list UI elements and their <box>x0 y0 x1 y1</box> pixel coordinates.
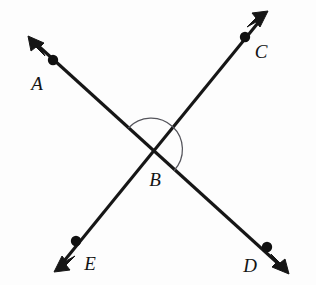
arrowhead-e <box>54 256 75 272</box>
geometry-figure: A B C D E <box>0 0 316 285</box>
label-c: C <box>255 41 268 62</box>
point-dot-c <box>240 32 250 42</box>
point-dot-a <box>48 55 58 65</box>
label-b: B <box>149 169 161 190</box>
label-d: D <box>242 255 257 276</box>
line-ad <box>33 41 283 268</box>
arrowhead-a <box>28 36 45 56</box>
line-ec <box>60 18 262 266</box>
label-e: E <box>83 253 96 274</box>
label-a: A <box>29 73 43 94</box>
geometry-canvas: A B C D E <box>0 0 316 285</box>
point-dot-e <box>71 236 81 246</box>
point-dot-d <box>262 242 272 252</box>
arrowhead-d <box>271 254 289 274</box>
arrowhead-c <box>247 11 268 27</box>
